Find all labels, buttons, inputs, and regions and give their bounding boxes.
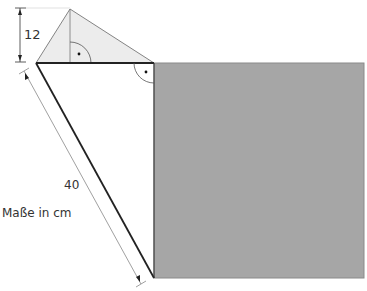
hypotenuse-dimension-tick-bottom [136, 281, 146, 287]
geometry-diagram: 12 40 Maße in cm [0, 0, 367, 291]
hypotenuse-edge [36, 63, 154, 278]
hypotenuse-label: 40 [64, 178, 79, 192]
right-angle-dot-corner [145, 71, 148, 74]
hypotenuse-dimension-tick-top [19, 68, 29, 74]
height-arrow-top [18, 9, 22, 15]
top-triangle [36, 9, 154, 63]
height-label: 12 [24, 27, 41, 42]
diagram-drawing [0, 0, 367, 291]
right-angle-dot-height [78, 53, 81, 56]
gray-square [154, 63, 364, 278]
hypotenuse-dimension-line [24, 71, 141, 284]
units-note: Maße in cm [2, 206, 72, 220]
right-angle-arc-corner [134, 63, 154, 83]
height-arrow-bottom [18, 55, 22, 61]
